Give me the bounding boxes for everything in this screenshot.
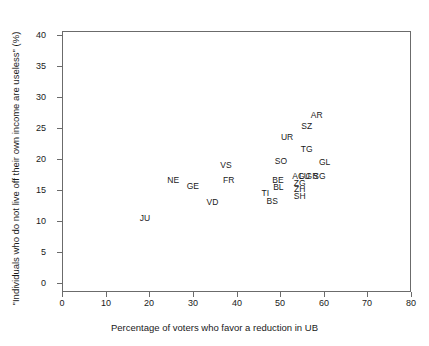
y-tick-label: 0 bbox=[41, 279, 46, 288]
x-tick-mark bbox=[237, 292, 238, 297]
y-tick-mark bbox=[57, 128, 62, 129]
data-point-label: VD bbox=[207, 198, 219, 207]
x-tick-label: 30 bbox=[178, 299, 208, 308]
x-tick-mark bbox=[193, 292, 194, 297]
data-point-label: SG bbox=[313, 171, 325, 180]
x-tick-label: 80 bbox=[396, 299, 426, 308]
plot-area bbox=[62, 31, 411, 292]
y-tick-mark bbox=[57, 190, 62, 191]
x-tick-mark bbox=[149, 292, 150, 297]
x-tick-label: 0 bbox=[47, 299, 77, 308]
x-tick-label: 50 bbox=[265, 299, 295, 308]
data-point-label: UR bbox=[281, 133, 293, 142]
data-point-label: JU bbox=[140, 214, 150, 223]
y-tick-label: 40 bbox=[36, 31, 46, 40]
scatter-chart-figure: 0510152025303540 01020304050607080 JUNEG… bbox=[0, 0, 429, 346]
x-tick-mark bbox=[324, 292, 325, 297]
data-point-label: SO bbox=[275, 157, 287, 166]
y-tick-label: 25 bbox=[36, 124, 46, 133]
y-tick-label: 10 bbox=[36, 217, 46, 226]
x-tick-label: 20 bbox=[134, 299, 164, 308]
data-point-label: AR bbox=[311, 111, 323, 120]
x-tick-label: 10 bbox=[91, 299, 121, 308]
y-tick-label: 5 bbox=[41, 248, 46, 257]
data-point-label: FR bbox=[223, 176, 234, 185]
data-point-label: SH bbox=[294, 191, 306, 200]
y-tick-mark bbox=[57, 283, 62, 284]
x-tick-mark bbox=[106, 292, 107, 297]
y-tick-label: 35 bbox=[36, 62, 46, 71]
data-point-label: SZ bbox=[301, 121, 312, 130]
data-point-label: GE bbox=[187, 182, 199, 191]
y-tick-mark bbox=[57, 35, 62, 36]
x-tick-mark bbox=[411, 292, 412, 297]
y-tick-label: 20 bbox=[36, 155, 46, 164]
data-point-label: VS bbox=[220, 160, 231, 169]
x-axis-title: Percentage of voters who favor a reducti… bbox=[0, 322, 429, 333]
data-point-label: BL bbox=[273, 183, 283, 192]
y-tick-mark bbox=[57, 66, 62, 67]
data-point-label: GL bbox=[319, 158, 330, 167]
y-tick-label: 30 bbox=[36, 93, 46, 102]
y-tick-mark bbox=[57, 159, 62, 160]
x-tick-label: 60 bbox=[309, 299, 339, 308]
y-axis-title: "Individuals who do not live off their o… bbox=[10, 0, 21, 339]
x-tick-label: 70 bbox=[352, 299, 382, 308]
y-tick-mark bbox=[57, 97, 62, 98]
x-tick-mark bbox=[280, 292, 281, 297]
y-tick-label: 15 bbox=[36, 186, 46, 195]
y-tick-mark bbox=[57, 221, 62, 222]
data-point-label: TG bbox=[301, 145, 313, 154]
data-point-label: NE bbox=[167, 176, 179, 185]
data-point-label: BS bbox=[267, 197, 278, 206]
y-axis-title-container: "Individuals who do not live off their o… bbox=[0, 0, 20, 346]
y-tick-mark bbox=[57, 252, 62, 253]
x-tick-label: 40 bbox=[222, 299, 252, 308]
x-tick-mark bbox=[367, 292, 368, 297]
x-tick-mark bbox=[62, 292, 63, 297]
